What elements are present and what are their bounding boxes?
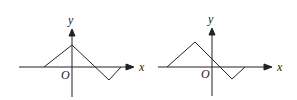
- x-axis-label: x: [276, 60, 283, 74]
- graph-right: [158, 28, 272, 96]
- x-axis-arrow-icon: [126, 64, 134, 70]
- y-axis-arrow-icon: [69, 29, 75, 36]
- origin-label: O: [61, 68, 70, 82]
- origin-label: O: [201, 67, 210, 81]
- x-axis-arrow-icon: [264, 64, 272, 70]
- function-graphs: x y O x y O: [0, 0, 297, 100]
- y-axis-arrow-icon: [209, 28, 215, 35]
- y-axis-label: y: [207, 12, 214, 26]
- graph-left: [19, 29, 134, 97]
- x-axis-label: x: [138, 60, 145, 74]
- function-curve: [44, 45, 121, 80]
- y-axis-label: y: [67, 13, 74, 27]
